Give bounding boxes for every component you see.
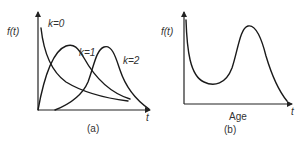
panel-a-caption: (a) <box>87 123 99 134</box>
panel-a: f(t) k=0 k=1 k=2 t (a) <box>7 12 150 134</box>
panel-b-x-label: t <box>291 106 295 117</box>
label-k1: k=1 <box>79 47 95 58</box>
panel-b-y-label: f(t) <box>161 26 173 37</box>
panel-b-x-title: Age <box>229 111 247 122</box>
panel-b: f(t) Age t (b) <box>161 12 295 135</box>
curve-age <box>186 20 287 101</box>
curve-k0 <box>41 28 128 101</box>
panel-b-caption: (b) <box>224 124 236 135</box>
label-k2: k=2 <box>123 55 140 66</box>
label-k0: k=0 <box>48 18 65 29</box>
figure: f(t) k=0 k=1 k=2 t (a) f(t) Age t (b) <box>0 0 303 142</box>
panel-a-y-label: f(t) <box>7 26 19 37</box>
panel-a-x-label: t <box>146 112 150 123</box>
